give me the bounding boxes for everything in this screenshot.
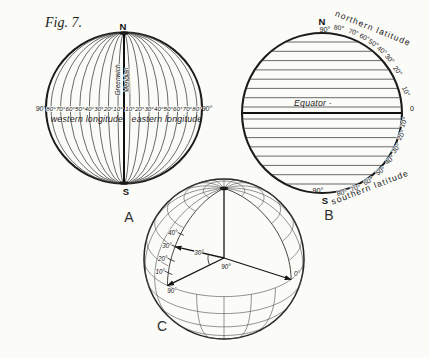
southern-latitude-caption: southern latitude bbox=[330, 168, 410, 207]
longitude-tick-east: 50° bbox=[164, 105, 174, 112]
globe-c-axes-and-arrows bbox=[167, 187, 291, 286]
meridian-label: Meridian bbox=[123, 67, 130, 92]
globe-a-longitude: 80°70°60°50°40°30°20°10°10°20°30°40°50°6… bbox=[36, 21, 213, 225]
grid-meridian bbox=[238, 294, 252, 338]
longitude-tick-west: 70° bbox=[56, 105, 66, 112]
globe-c-coordinates: 10°20°30°40° 30° 90° 90° 0° C bbox=[144, 179, 304, 339]
globe-a-left-90-tick: 90° bbox=[36, 105, 47, 112]
longitude-angle-label: 90° bbox=[221, 263, 231, 270]
globe-b-north-label: N bbox=[319, 16, 326, 27]
figure-7-page: Fig. 7. 80°70°60°50°40°30°20°10°10°20°30… bbox=[0, 0, 429, 358]
latitude-tick-north: 20° bbox=[392, 64, 404, 77]
globes-diagram: Fig. 7. 80°70°60°50°40°30°20°10°10°20°30… bbox=[0, 0, 429, 358]
longitude-tick-east: 10° bbox=[125, 105, 135, 112]
globe-a-letter: A bbox=[124, 209, 134, 225]
longitude-tick-west: 30° bbox=[94, 105, 104, 112]
longitude-tick-west: 50° bbox=[75, 105, 85, 112]
longitude-tick-west: 80° bbox=[46, 105, 56, 112]
globe-a-south-pole bbox=[119, 181, 129, 185]
globe-b-bottom-90-tick: 90° bbox=[312, 186, 323, 195]
latitude-tick-south: 30° bbox=[390, 142, 402, 155]
equator-label: Equator · bbox=[294, 98, 332, 108]
longitude-tick-east: 30° bbox=[144, 105, 154, 112]
latitude-tick-label: 30° bbox=[162, 242, 172, 249]
latitude-tick-south: 50° bbox=[374, 165, 387, 177]
grid-parallel bbox=[290, 236, 302, 260]
grid-meridian bbox=[197, 294, 211, 338]
latitude-tick-north: 70° bbox=[348, 27, 360, 37]
latitude-tick-south: 20° bbox=[395, 129, 406, 142]
latitude-angle-label: 30° bbox=[194, 249, 204, 256]
longitude-tick-west: 60° bbox=[66, 105, 76, 112]
longitude-tick-west: 10° bbox=[113, 105, 123, 112]
longitude-tick-east: 60° bbox=[173, 105, 183, 112]
radius-to-90w-arrow bbox=[167, 258, 224, 286]
longitude-tick-west: 40° bbox=[85, 105, 95, 112]
grid-parallel bbox=[271, 194, 281, 223]
globe-c-pole bbox=[220, 187, 228, 191]
globe-c-letter: C bbox=[157, 318, 167, 334]
latitude-angle-arc bbox=[208, 254, 210, 265]
prime-point-label: 0° bbox=[294, 270, 301, 277]
longitude-tick-west: 20° bbox=[103, 105, 114, 112]
globe-a-right-90-tick: 90° bbox=[202, 105, 213, 112]
latitude-tick-north: 10° bbox=[401, 85, 412, 98]
latitude-tick-south: 40° bbox=[383, 153, 395, 165]
globe-b-latitude: 80°70°60°50°40°30°20°10°10°20°30°40°50°6… bbox=[242, 8, 414, 223]
west-point-label: 90° bbox=[167, 287, 177, 294]
globe-b-letter: B bbox=[324, 207, 333, 223]
figure-label: Fig. 7. bbox=[44, 15, 82, 30]
latitude-tick-label: 40° bbox=[168, 229, 178, 236]
eastern-longitude-caption: eastern longitude bbox=[132, 114, 203, 124]
latitude-tick-north: 80° bbox=[333, 23, 345, 32]
cut-edge-west-meridian bbox=[167, 188, 224, 285]
longitude-tick-east: 40° bbox=[154, 105, 164, 112]
latitude-tick-label: 10° bbox=[156, 268, 166, 275]
equator-0-tick: 0 bbox=[410, 104, 414, 113]
longitude-tick-east: 70° bbox=[183, 105, 193, 112]
globe-a-south-label: S bbox=[123, 186, 129, 197]
radius-to-0-arrow bbox=[224, 258, 291, 280]
western-longitude-caption: western longitude bbox=[51, 114, 123, 124]
grid-meridian bbox=[253, 288, 276, 334]
globe-b-south-label: S bbox=[322, 195, 328, 206]
greenwich-label: Greenwich bbox=[114, 64, 121, 95]
latitude-tick-label: 20° bbox=[157, 255, 168, 262]
latitude-tick-south: 10° bbox=[398, 116, 409, 128]
longitude-tick-east: 20° bbox=[134, 105, 145, 112]
globe-a-north-label: N bbox=[120, 21, 127, 32]
